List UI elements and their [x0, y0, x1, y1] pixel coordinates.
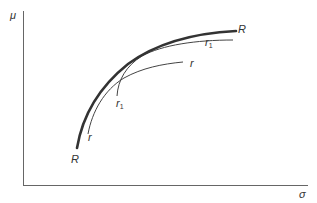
curve-r1 [117, 40, 233, 96]
diagram: μ σ R R r r r1 r1 [0, 0, 317, 203]
curve-r [88, 62, 183, 134]
curve-R-label-bottom: R [71, 154, 79, 165]
curve-r-label-top: r [190, 58, 194, 69]
curve-r1-label-top: r1 [205, 37, 213, 49]
x-axis-label: σ [299, 189, 306, 200]
y-axis-label: μ [10, 10, 16, 21]
diagram-graphics [0, 0, 317, 203]
curve-R-label-top: R [238, 24, 246, 35]
curve-r-label-bottom: r [88, 132, 92, 143]
curve-r1-label-bottom: r1 [116, 98, 124, 110]
curve-r1-label-top-sub: 1 [209, 42, 213, 49]
curve-r1-label-bottom-sub: 1 [120, 103, 124, 110]
